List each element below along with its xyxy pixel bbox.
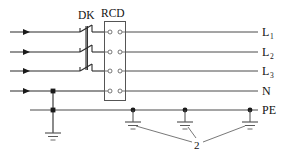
rcd-terminal-in-l1 [108, 30, 112, 34]
leader-line-to-ground-1 [136, 126, 192, 142]
dk-label: DK [78, 9, 95, 21]
rcd-terminal-in-n [108, 89, 112, 93]
leader-line-to-ground-2 [188, 127, 196, 138]
ground-symbol-1 [125, 122, 141, 129]
junction-dot-pe-main [51, 108, 56, 113]
label-l1: L [262, 25, 269, 39]
rcd-terminal-out-n [118, 89, 122, 93]
annotation-labels: 2 [194, 139, 200, 151]
rcd-terminal-in-l2 [108, 50, 112, 54]
label-l2-subscript: 2 [270, 52, 274, 61]
rcd-device[interactable] [105, 22, 126, 101]
supply-direction-arrows [23, 29, 30, 94]
rcd-label: RCD [101, 7, 125, 19]
rcd-terminal-in-l3 [108, 69, 112, 73]
circuit-diagram: DK RCD L 1 L 2 L 3 N PE 2 [0, 0, 287, 156]
incoming-supply-lines [10, 32, 104, 91]
arrow-head-l2 [23, 49, 30, 55]
rcd-terminal-out-l2 [118, 50, 122, 54]
ground-symbol-3 [242, 122, 258, 129]
outgoing-distribution-lines [126, 32, 259, 91]
circuit-diagram-canvas: DK RCD L 1 L 2 L 3 N PE 2 [0, 0, 287, 156]
rcd-enclosure-outline [105, 22, 126, 101]
device-labels: DK RCD [78, 7, 125, 21]
label-pe: PE [262, 103, 276, 117]
conductor-labels: L 1 L 2 L 3 N PE [262, 25, 276, 117]
label-l2: L [262, 45, 269, 59]
pe-busbar [30, 89, 258, 133]
label-n: N [262, 84, 271, 98]
callout-leader-lines [136, 126, 245, 142]
arrow-head-l1 [23, 29, 30, 35]
annotation-2: 2 [194, 139, 200, 151]
label-l1-subscript: 1 [270, 32, 274, 41]
label-l3: L [262, 64, 269, 78]
rcd-terminal-out-l3 [118, 69, 122, 73]
ground-symbol-main [45, 133, 61, 140]
arrow-head-l3 [23, 68, 30, 74]
arrow-head-n [23, 88, 30, 94]
junction-dot-n [51, 89, 56, 94]
ground-symbol-2 [177, 122, 193, 129]
label-l3-subscript: 3 [270, 71, 274, 80]
leader-line-to-ground-3 [203, 126, 245, 142]
rcd-terminal-out-l1 [118, 30, 122, 34]
dk-switch[interactable] [80, 25, 104, 71]
